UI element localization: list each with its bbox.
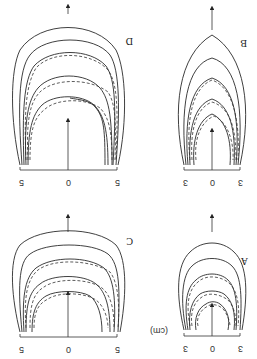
svg-text:5: 5 xyxy=(19,178,24,188)
figure: D 5 0 5 B 3 0 3 C xyxy=(0,0,257,359)
panel-a: A 3 0 3 xyxy=(179,216,248,354)
svg-text:5: 5 xyxy=(115,345,120,355)
svg-text:5: 5 xyxy=(19,345,24,355)
figure-canvas: D 5 0 5 B 3 0 3 C xyxy=(0,0,257,359)
svg-text:3: 3 xyxy=(183,178,188,188)
panel-label-b: B xyxy=(240,38,247,49)
svg-text:0: 0 xyxy=(210,344,215,354)
panel-c: C 5 0 5 xyxy=(12,216,133,355)
panel-label-c: C xyxy=(126,236,133,247)
panel-b: B 3 0 3 xyxy=(178,8,247,188)
panel-label-d: D xyxy=(126,36,133,47)
panel-d: D 5 0 5 xyxy=(13,6,134,188)
svg-text:5: 5 xyxy=(115,178,120,188)
svg-text:0: 0 xyxy=(66,345,71,355)
panel-label-a: A xyxy=(240,256,248,267)
svg-text:3: 3 xyxy=(238,344,243,354)
svg-text:3: 3 xyxy=(238,178,243,188)
unit-label: (cm) xyxy=(150,326,168,336)
svg-text:0: 0 xyxy=(210,178,215,188)
svg-text:0: 0 xyxy=(66,178,71,188)
svg-text:3: 3 xyxy=(183,344,188,354)
